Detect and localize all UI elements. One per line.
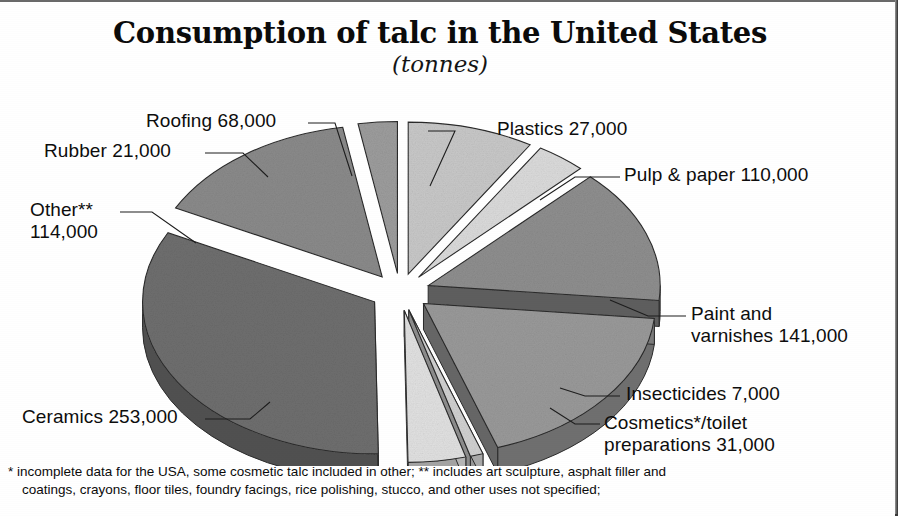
label-rubber: Rubber 21,000 bbox=[44, 140, 171, 162]
label-plastics: Plastics 27,000 bbox=[497, 118, 627, 140]
label-insecticides: Insecticides 7,000 bbox=[626, 383, 780, 405]
pie-slices bbox=[143, 121, 661, 466]
footnote: * incomplete data for the USA, some cosm… bbox=[8, 463, 888, 499]
pie-slice-ceramics[interactable] bbox=[143, 233, 379, 454]
label-cosmetics: Cosmetics*/toilet preparations 31,000 bbox=[604, 412, 775, 457]
label-ceramics: Ceramics 253,000 bbox=[22, 406, 178, 428]
pie-chart: Roofing 68,000 Rubber 21,000 Other** 114… bbox=[0, 0, 898, 466]
footnote-line-2: coatings, crayons, floor tiles, foundry … bbox=[8, 481, 888, 499]
label-roofing: Roofing 68,000 bbox=[146, 110, 276, 132]
label-paint-varnishes: Paint and varnishes 141,000 bbox=[691, 303, 848, 348]
label-other: Other** 114,000 bbox=[30, 199, 98, 244]
footnote-line-1: * incomplete data for the USA, some cosm… bbox=[8, 464, 666, 479]
label-pulp-paper: Pulp & paper 110,000 bbox=[624, 164, 808, 186]
